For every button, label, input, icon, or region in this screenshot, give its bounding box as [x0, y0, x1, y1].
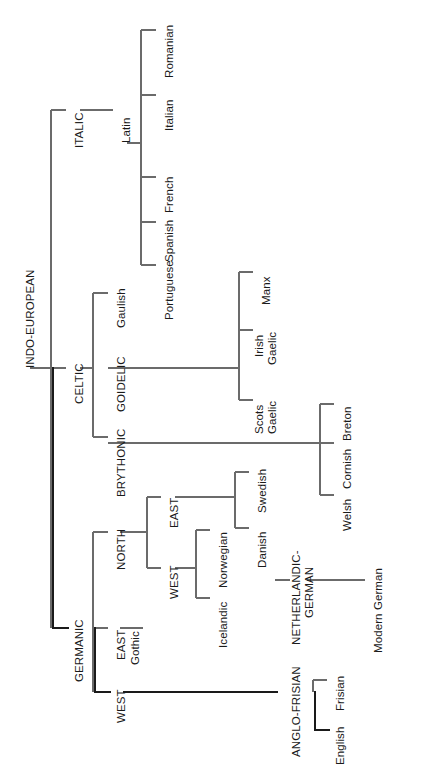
- node-label-romanian[interactable]: Romanian: [163, 25, 176, 78]
- line-bold-root-to-germanic: [53, 368, 68, 628]
- node-label-breton[interactable]: Breton: [341, 407, 354, 441]
- diagram-canvas: INDO-EUROPEAN ITALIC Latin Romanian Ital…: [0, 0, 423, 768]
- tree-connector-lines: [0, 0, 423, 768]
- node-label-norwegian[interactable]: Norwegian: [217, 532, 230, 588]
- node-label-germanic-west[interactable]: WEST: [115, 689, 128, 723]
- node-label-italic[interactable]: ITALIC: [73, 112, 86, 148]
- node-label-goidelic[interactable]: GOIDELIC: [115, 356, 128, 412]
- node-label-portuguese[interactable]: Portuguese: [163, 260, 176, 320]
- line-bold-anglofrisian-to-english: [315, 692, 329, 730]
- node-label-swedish[interactable]: Swedish: [256, 469, 269, 513]
- node-label-spanish[interactable]: Spanish: [163, 220, 176, 262]
- node-label-anglo-frisian[interactable]: ANGLO-FRISIAN: [290, 666, 303, 757]
- node-label-welsh[interactable]: Welsh: [341, 499, 354, 531]
- node-label-modern-german[interactable]: Modern German: [372, 568, 385, 653]
- node-label-danish[interactable]: Danish: [256, 532, 269, 568]
- node-label-germanic[interactable]: GERMANIC: [73, 619, 86, 682]
- node-label-indo-european[interactable]: INDO-EUROPEAN: [24, 270, 37, 368]
- node-label-frisian[interactable]: Frisian: [334, 676, 347, 711]
- node-label-italian[interactable]: Italian: [163, 100, 176, 131]
- node-label-latin[interactable]: Latin: [120, 118, 133, 143]
- node-label-manx[interactable]: Manx: [260, 276, 273, 305]
- node-label-gaulish[interactable]: Gaulish: [115, 288, 128, 328]
- node-label-cornish[interactable]: Cornish: [341, 449, 354, 489]
- node-label-gothic[interactable]: Gothic: [129, 631, 142, 665]
- node-label-brythonic[interactable]: BRYTHONIC: [115, 429, 128, 497]
- node-label-french[interactable]: French: [163, 177, 176, 213]
- node-label-icelandic[interactable]: Icelandic: [217, 602, 230, 648]
- node-label-celtic[interactable]: CELTIC: [73, 363, 86, 404]
- line-bold-germanic-to-west: [95, 628, 110, 692]
- node-label-english[interactable]: English: [334, 727, 347, 765]
- node-label-germanic-east[interactable]: EAST: [115, 630, 128, 660]
- node-label-north[interactable]: NORTH: [115, 529, 128, 570]
- node-label-north-east[interactable]: EAST: [168, 498, 181, 528]
- node-label-north-west[interactable]: WEST: [168, 565, 181, 599]
